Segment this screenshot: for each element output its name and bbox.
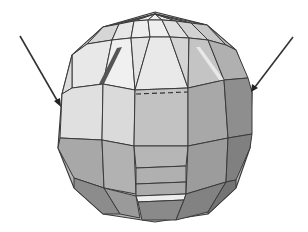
right-arrow (251, 37, 293, 92)
faceted-sphere-figure (0, 0, 308, 232)
left-arrowhead-icon (54, 98, 61, 107)
left-arrow (20, 36, 61, 107)
diagram-canvas (0, 0, 308, 232)
